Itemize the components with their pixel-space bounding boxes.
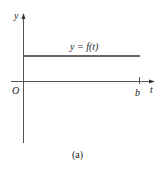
- caption: (a): [72, 149, 83, 161]
- diagram-canvas: y y = f(t) O b t (a): [0, 0, 158, 169]
- tick-label-b: b: [135, 87, 140, 98]
- origin-label: O: [12, 85, 19, 96]
- x-axis-arrow-icon: [149, 80, 155, 84]
- y-axis-arrow-icon: [22, 13, 26, 19]
- function-label: y = f(t): [69, 41, 99, 53]
- y-axis-label: y: [13, 10, 19, 21]
- x-axis-label: t: [150, 84, 153, 95]
